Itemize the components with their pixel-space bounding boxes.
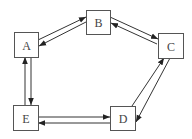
edge-b-to-c [110,17,158,39]
node-e: E [14,106,39,131]
edge-c-to-d [136,58,170,122]
node-b-label: B [94,16,102,30]
graph-canvas: A B C D E [0,0,192,139]
edge-b-to-a [39,22,86,46]
edge-a-to-b [38,17,86,40]
node-d-label: D [119,112,128,126]
node-a: A [15,33,39,58]
node-d: D [111,107,136,131]
node-e-label: E [22,112,29,126]
edge-c-to-b [111,23,157,44]
node-b: B [87,11,111,35]
node-a-label: A [22,39,31,53]
node-c-label: C [167,40,175,54]
nodes: A B C D E [14,11,184,131]
node-c: C [159,34,184,59]
